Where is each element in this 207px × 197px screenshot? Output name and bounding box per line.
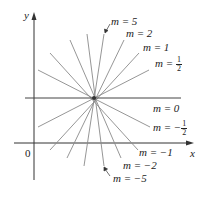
arrow-m-neg-5-icon — [104, 167, 108, 171]
label-m-1: m = 1 — [143, 42, 169, 53]
label-m-neg-2: m = −2 — [123, 160, 157, 171]
pointer-arrows — [104, 24, 110, 176]
label-m-0: m = 0 — [153, 103, 179, 114]
label-m-neg-5: m = −5 — [113, 173, 147, 184]
denominator: 2 — [181, 129, 187, 137]
arrow-m-5-icon — [105, 29, 109, 33]
label-m-half: m = 12 — [155, 56, 182, 73]
fraction: 12 — [181, 120, 187, 137]
label-m-5: m = 5 — [111, 16, 137, 27]
x-axis-arrow-icon — [186, 141, 194, 146]
y-axis-arrow-icon — [32, 12, 37, 20]
label-m-neg-half: m = −12 — [153, 120, 187, 137]
label-m-half-prefix: m = — [155, 57, 176, 69]
x-axis-label: x — [190, 147, 195, 159]
label-m-2: m = 2 — [126, 28, 152, 39]
center-point — [92, 96, 96, 100]
label-m-neg-half-prefix: m = − — [153, 121, 181, 133]
fraction: 12 — [176, 56, 182, 73]
line-family-diagram — [0, 0, 207, 197]
y-axis-label: y — [24, 9, 29, 21]
denominator: 2 — [176, 65, 182, 73]
label-m-neg-1: m = −1 — [139, 147, 173, 158]
origin-label: 0 — [25, 147, 31, 159]
